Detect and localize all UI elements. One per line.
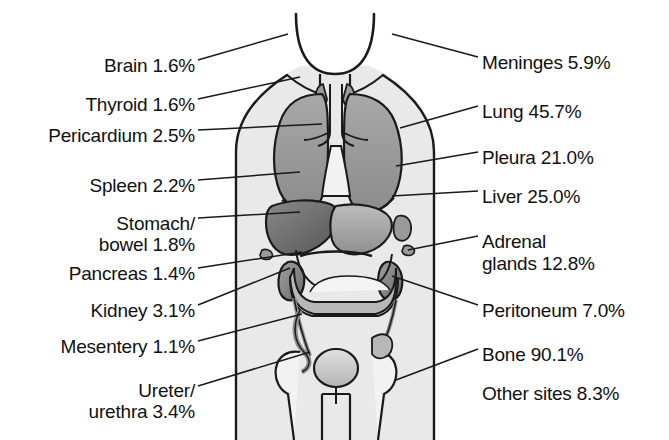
label-meninges: Meninges 5.9% (482, 52, 610, 74)
label-pericardium: Pericardium 2.5% (8, 125, 195, 147)
label-brain: Brain 1.6% (30, 55, 195, 77)
label-pancreas: Pancreas 1.4% (30, 263, 195, 285)
label-mesentery: Mesentery 1.1% (18, 336, 195, 358)
label-spleen: Spleen 2.2% (30, 175, 195, 197)
label-other-sites: Other sites 8.3% (482, 383, 619, 405)
label-kidney: Kidney 3.1% (30, 300, 195, 322)
metastasis-body-diagram: Brain 1.6%Thyroid 1.6%Pericardium 2.5%Sp… (0, 0, 669, 440)
label-ureter: Ureter/ (30, 380, 195, 402)
label-adrenal: Adrenal (482, 231, 546, 253)
label-stomach-bowel-2: bowel 1.8% (30, 234, 195, 256)
label-thyroid: Thyroid 1.6% (30, 94, 195, 116)
label-urethra: urethra 3.4% (30, 401, 195, 423)
label-liver: Liver 25.0% (482, 186, 580, 208)
spleen-organ (394, 216, 412, 241)
label-stomach-bowel: Stomach/ (30, 213, 195, 235)
label-pleura: Pleura 21.0% (482, 147, 594, 169)
label-bone: Bone 90.1% (482, 344, 584, 366)
label-lung: Lung 45.7% (482, 101, 581, 123)
label-adrenal-2: glands 12.8% (482, 253, 595, 275)
label-peritoneum: Peritoneum 7.0% (482, 300, 625, 322)
